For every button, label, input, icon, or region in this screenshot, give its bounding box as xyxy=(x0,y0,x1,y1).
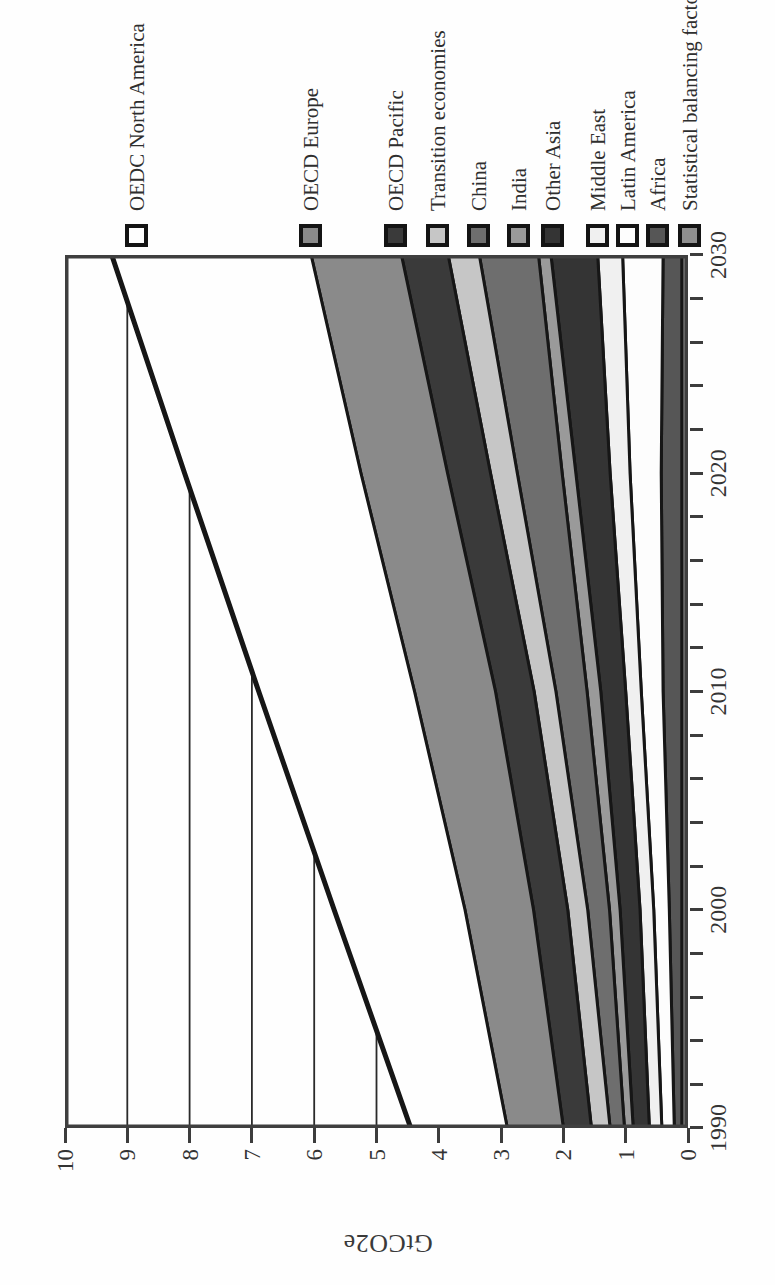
value-tick-label-8: 8 xyxy=(179,1149,202,1285)
value-tick-9 xyxy=(126,1128,129,1143)
legend-label-middle-east: Middle East xyxy=(587,109,609,211)
year-tick-2014 xyxy=(690,603,703,606)
value-tick-label-5: 5 xyxy=(366,1149,389,1285)
rotated-chart-canvas: GtCO2e 10987654321019902000201020202030O… xyxy=(0,0,775,1285)
legend-swatch-latin-america xyxy=(616,224,639,247)
legend-label-india: India xyxy=(508,168,530,211)
value-tick-label-6: 6 xyxy=(303,1149,326,1285)
legend-swatch-middle-east xyxy=(586,224,609,247)
legend-swatch-statistical-balancing-factor xyxy=(678,224,701,247)
year-tick-2016 xyxy=(690,559,703,562)
legend-label-africa: Africa xyxy=(647,157,669,211)
value-tick-8 xyxy=(188,1128,191,1143)
value-tick-4 xyxy=(437,1128,440,1143)
legend-swatch-oecd-pacific xyxy=(384,224,407,247)
legend-swatch-china xyxy=(467,224,490,247)
legend-label-latin-america: Latin America xyxy=(617,90,639,211)
value-tick-3 xyxy=(500,1128,503,1143)
value-tick-label-1: 1 xyxy=(615,1149,638,1285)
value-tick-label-0: 0 xyxy=(677,1149,700,1285)
year-tick-2030 xyxy=(690,254,703,257)
year-tick-2004 xyxy=(690,821,703,824)
legend-swatch-oedc-north-america xyxy=(125,224,148,247)
year-tick-1998 xyxy=(690,952,703,955)
legend-label-oecd-pacific: OECD Pacific xyxy=(385,90,407,211)
value-tick-7 xyxy=(250,1128,253,1143)
plot-area xyxy=(65,255,688,1128)
legend-label-transition-economies: Transition economies xyxy=(427,30,449,211)
year-tick-label-2030: 2030 xyxy=(706,200,730,310)
value-tick-label-2: 2 xyxy=(552,1149,575,1285)
legend-swatch-transition-economies xyxy=(426,224,449,247)
legend-label-china: China xyxy=(468,161,490,211)
year-tick-1992 xyxy=(690,1083,703,1086)
legend-swatch-other-asia xyxy=(541,224,564,247)
value-tick-label-4: 4 xyxy=(428,1149,451,1285)
legend-swatch-oecd-europe xyxy=(299,224,322,247)
value-tick-10 xyxy=(64,1128,67,1143)
value-tick-5 xyxy=(375,1128,378,1143)
year-tick-2008 xyxy=(690,734,703,737)
year-tick-2022 xyxy=(690,428,703,431)
legend-label-statistical-balancing-factor: Statistical balancing factor xyxy=(679,0,701,211)
scanned-figure-page: GtCO2e 10987654321019902000201020202030O… xyxy=(0,0,775,1285)
year-tick-1990 xyxy=(690,1127,703,1130)
value-tick-6 xyxy=(313,1128,316,1143)
legend-swatch-india xyxy=(507,224,530,247)
year-tick-1996 xyxy=(690,996,703,999)
value-tick-label-3: 3 xyxy=(490,1149,513,1285)
year-tick-2028 xyxy=(690,297,703,300)
legend-label-oedc-north-america: OEDC North America xyxy=(126,23,148,211)
year-tick-label-2020: 2020 xyxy=(706,418,730,528)
year-tick-2026 xyxy=(690,341,703,344)
year-tick-2006 xyxy=(690,777,703,780)
year-tick-1994 xyxy=(690,1039,703,1042)
year-tick-label-1990: 1990 xyxy=(706,1073,730,1183)
year-tick-label-2010: 2010 xyxy=(706,637,730,747)
year-tick-2010 xyxy=(690,690,703,693)
stacked-area-svg xyxy=(65,255,688,1128)
value-tick-label-7: 7 xyxy=(241,1149,264,1285)
legend-label-other-asia: Other Asia xyxy=(542,121,564,211)
value-tick-1 xyxy=(624,1128,627,1143)
legend-label-oecd-europe: OECD Europe xyxy=(300,88,322,211)
value-tick-label-9: 9 xyxy=(116,1149,139,1285)
year-tick-2020 xyxy=(690,472,703,475)
legend-swatch-africa xyxy=(646,224,669,247)
value-tick-0 xyxy=(687,1128,690,1143)
value-tick-2 xyxy=(562,1128,565,1143)
year-tick-label-2000: 2000 xyxy=(706,855,730,965)
year-tick-2000 xyxy=(690,908,703,911)
year-tick-2002 xyxy=(690,865,703,868)
year-tick-2018 xyxy=(690,515,703,518)
stacked-area-chart: GtCO2e 10987654321019902000201020202030O… xyxy=(0,0,775,1285)
value-tick-label-10: 10 xyxy=(54,1149,77,1285)
year-tick-2024 xyxy=(690,384,703,387)
year-tick-2012 xyxy=(690,646,703,649)
